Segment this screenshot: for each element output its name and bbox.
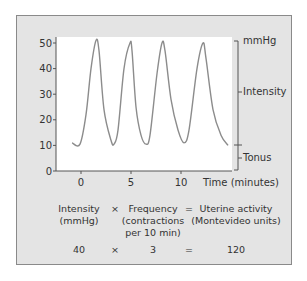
svg-text:10: 10	[39, 140, 52, 151]
svg-text:50: 50	[39, 38, 52, 49]
svg-text:30: 30	[39, 89, 52, 100]
intensity-label: Intensity	[243, 86, 287, 97]
svg-text:20: 20	[39, 114, 52, 125]
x-axis-title: Time (minutes)	[202, 177, 279, 188]
formula-intensity-label: Intensity (mmHg)	[48, 203, 110, 227]
x-ticks: 0510	[78, 171, 188, 188]
intensity-tonus-bracket	[234, 41, 242, 170]
svg-text:5: 5	[128, 177, 134, 188]
tonus-label: Tonus	[242, 152, 271, 163]
formula-activity-label: Uterine activity (Montevideo units)	[188, 203, 284, 227]
value-frequency: 3	[138, 244, 168, 255]
svg-text:10: 10	[175, 177, 188, 188]
y-ticks: 01020304050	[39, 38, 56, 177]
contraction-chart: 01020304050 0510 Time (minutes) mmHg Int…	[0, 0, 307, 200]
svg-text:0: 0	[78, 177, 84, 188]
value-intensity: 40	[64, 244, 94, 255]
value-times: ×	[108, 244, 122, 255]
formula-frequency-label: Frequency (contractions per 10 min)	[116, 203, 190, 239]
value-activity: 120	[221, 244, 251, 255]
svg-text:40: 40	[39, 63, 52, 74]
value-equals: =	[182, 244, 196, 255]
svg-text:0: 0	[46, 166, 52, 177]
unit-label: mmHg	[243, 35, 276, 46]
